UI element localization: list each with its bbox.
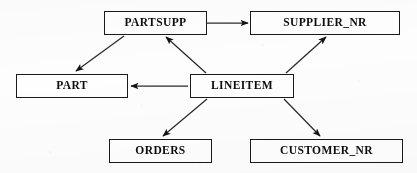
node-part[interactable]: PART [16, 74, 128, 98]
node-label: PART [56, 80, 88, 92]
node-label: LINEITEM [211, 80, 273, 92]
node-label: CUSTOMER_NR [280, 145, 373, 157]
node-partsupp[interactable]: PARTSUPP [104, 11, 207, 35]
edge-lineitem-to-customer_nr [284, 99, 320, 136]
edge-lineitem-to-orders [163, 99, 207, 136]
node-supplier-nr[interactable]: SUPPLIER_NR [250, 11, 400, 35]
node-lineitem[interactable]: LINEITEM [190, 74, 294, 98]
edge-lineitem-to-supplier_nr [286, 37, 326, 73]
node-customer-nr[interactable]: CUSTOMER_NR [250, 139, 403, 163]
node-label: PARTSUPP [125, 17, 187, 29]
node-label: SUPPLIER_NR [283, 17, 367, 29]
schema-diagram-canvas: PARTSUPP SUPPLIER_NR PART LINEITEM ORDER… [0, 0, 417, 173]
node-orders[interactable]: ORDERS [109, 139, 212, 163]
edge-partsupp-to-part [76, 36, 124, 71]
node-label: ORDERS [135, 145, 185, 157]
edge-lineitem-to-partsupp [166, 37, 206, 73]
